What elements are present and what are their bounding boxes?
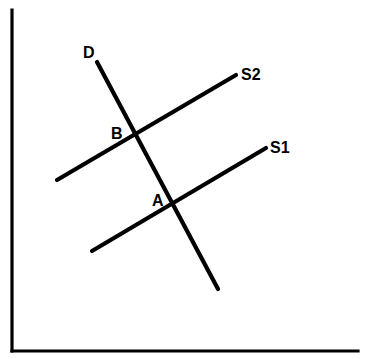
equilibrium-point-a-label: A [152, 192, 164, 209]
equilibrium-point-b-label: B [111, 125, 123, 142]
supply-demand-diagram: D S2 S1 B A [0, 0, 367, 359]
supply-curve-s1-label: S1 [270, 139, 290, 156]
supply-curve-s2 [57, 75, 236, 180]
supply-curve-s1 [92, 148, 266, 251]
supply-curve-s2-label: S2 [241, 66, 261, 83]
figure-root: D S2 S1 B A [0, 0, 367, 359]
demand-curve-label: D [83, 44, 95, 61]
